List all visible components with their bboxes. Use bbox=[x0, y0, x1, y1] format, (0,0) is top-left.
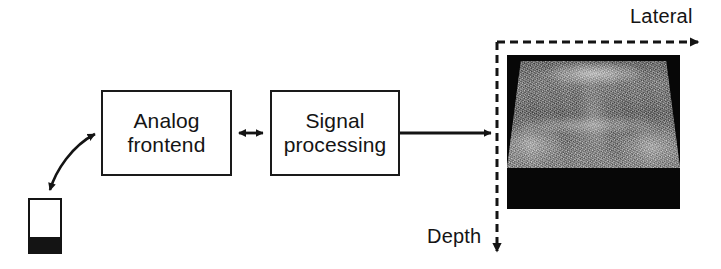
axis-label-lateral: Lateral bbox=[630, 5, 693, 28]
figure-canvas: Analog frontend Signal processing Latera… bbox=[0, 0, 721, 269]
ultrasound-scan-sector bbox=[507, 61, 680, 168]
axis-label-depth: Depth bbox=[427, 225, 481, 248]
transducer-probe bbox=[28, 198, 62, 254]
block-signal-processing-line2: processing bbox=[284, 133, 387, 157]
block-signal-processing-line1: Signal bbox=[306, 109, 365, 133]
transducer-face bbox=[30, 237, 60, 252]
block-signal-processing: Signal processing bbox=[270, 90, 400, 176]
ultrasound-speckle-texture bbox=[507, 61, 680, 168]
block-analog-frontend-line2: frontend bbox=[128, 133, 206, 157]
connector-probe-to-analog bbox=[50, 134, 95, 190]
block-analog-frontend: Analog frontend bbox=[101, 90, 232, 176]
b-mode-ultrasound-image bbox=[507, 55, 680, 209]
block-analog-frontend-line1: Analog bbox=[134, 109, 200, 133]
